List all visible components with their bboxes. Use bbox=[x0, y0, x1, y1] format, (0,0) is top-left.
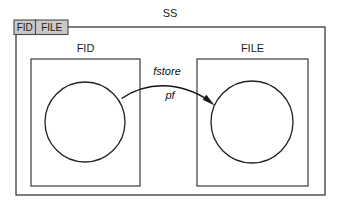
package-circle-fid bbox=[45, 82, 125, 162]
ss-title-label: SS bbox=[163, 7, 178, 19]
tab-fid-label: FID bbox=[17, 22, 33, 33]
tab-file-label: FILE bbox=[41, 22, 62, 33]
package-label-file: FILE bbox=[241, 42, 264, 54]
edge-label-pf: pf bbox=[164, 89, 175, 101]
dependency-arrow-head-icon bbox=[203, 95, 213, 104]
ss-package-diagram: SS FID FILE FID FILE fstore pf bbox=[0, 0, 339, 205]
diagram-canvas: SS FID FILE FID FILE fstore pf bbox=[0, 0, 339, 205]
ss-container-box bbox=[16, 27, 325, 195]
package-label-fid: FID bbox=[77, 42, 95, 54]
package-box-file[interactable] bbox=[197, 59, 308, 186]
edge-label-fstore: fstore bbox=[153, 65, 181, 77]
package-circle-file bbox=[211, 81, 293, 163]
package-box-fid[interactable] bbox=[31, 59, 140, 186]
